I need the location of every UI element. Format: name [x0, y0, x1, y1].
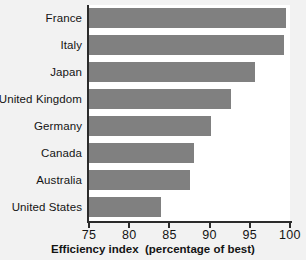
x-tick-label: 100 — [279, 228, 301, 242]
x-tick-label: 95 — [243, 228, 258, 242]
bar — [89, 143, 194, 163]
x-tick-label: 80 — [122, 228, 137, 242]
category-label: Italy — [60, 39, 82, 51]
category-label: Germany — [34, 120, 82, 132]
category-label: Canada — [41, 147, 82, 159]
category-label: Japan — [50, 66, 82, 78]
x-axis-line — [87, 221, 292, 223]
category-label: United States — [12, 201, 82, 213]
x-tick-label: 75 — [82, 228, 97, 242]
category-label: France — [46, 12, 82, 24]
bar — [89, 116, 211, 136]
bar — [89, 62, 255, 82]
x-axis-title: Efficiency index (percentage of best) — [0, 243, 306, 255]
bar — [89, 35, 284, 55]
bar-chart: FranceItalyJapanUnited KingdomGermanyCan… — [0, 0, 306, 260]
x-tick-label: 90 — [202, 228, 217, 242]
category-label: Australia — [36, 174, 82, 186]
bar — [89, 197, 161, 217]
category-label: United Kingdom — [0, 93, 82, 105]
bar — [89, 8, 286, 28]
x-tick-label: 85 — [162, 228, 177, 242]
bar — [89, 89, 231, 109]
bar — [89, 170, 190, 190]
